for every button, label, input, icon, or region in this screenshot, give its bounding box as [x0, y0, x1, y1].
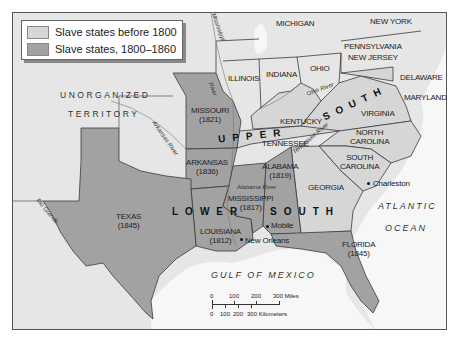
- label-south-carolina: SOUTH CAROLINA: [340, 153, 379, 171]
- legend-swatch-light: [27, 26, 49, 39]
- label-north-carolina: NORTH CAROLINA: [350, 128, 389, 146]
- label-michigan: MICHIGAN: [276, 19, 314, 28]
- legend-swatch-dark: [27, 43, 49, 56]
- scale-mile-0: 0: [210, 293, 213, 299]
- city-new-orleans: New Orleans: [245, 236, 289, 245]
- scale-km-0: 0: [210, 311, 213, 317]
- scale-mile-300: 300 Miles: [273, 293, 299, 299]
- label-indiana: INDIANA: [266, 70, 297, 79]
- label-missouri: MISSOURI(1821): [191, 106, 229, 124]
- scale-km-200: 200: [233, 311, 243, 317]
- label-illinois: ILLINOIS: [228, 74, 259, 83]
- legend-label: Slave states, 1800–1860: [55, 43, 176, 55]
- label-florida: FLORIDA(1845): [342, 240, 375, 258]
- scale-mile-100: 100: [229, 293, 239, 299]
- label-georgia: GEORGIA: [308, 183, 344, 192]
- ocean-label: OCEAN: [385, 223, 427, 233]
- label-alabama: ALABAMA(1819): [262, 162, 298, 180]
- label-louisiana: LOUISIANA(1812): [200, 227, 241, 245]
- label-delaware: DELAWARE: [400, 73, 443, 82]
- territory-line1: UNORGANIZED: [60, 90, 150, 100]
- territory-line2: TERRITORY: [68, 109, 139, 119]
- scale-km-100: 100: [220, 311, 230, 317]
- city-dot-mobile: [266, 225, 269, 228]
- legend-item-before-1800: Slave states before 1800: [27, 24, 177, 40]
- label-maryland: MARYLAND: [404, 93, 447, 102]
- city-dot-charleston: [367, 182, 370, 185]
- river-alabama: Alabama River: [237, 184, 276, 190]
- label-arkansas: ARKANSAS(1836): [186, 158, 228, 176]
- label-ohio: OHIO: [310, 64, 330, 73]
- city-dot-new-orleans: [240, 238, 243, 241]
- gulf-label: GULF OF MEXICO: [211, 270, 316, 280]
- region-lower-label: LOWER: [172, 206, 244, 217]
- label-new-jersey: NEW JERSEY: [348, 53, 398, 62]
- legend-label: Slave states before 1800: [55, 26, 177, 38]
- legend-item-1800-1860: Slave states, 1800–1860: [27, 41, 177, 57]
- label-virginia: VIRGINIA: [361, 109, 395, 118]
- scale-mile-200: 200: [251, 293, 261, 299]
- city-charleston: Charleston: [373, 179, 410, 188]
- atlantic-label: ATLANTIC: [378, 201, 437, 211]
- city-mobile: Mobile: [271, 221, 293, 230]
- label-new-york: NEW YORK: [370, 17, 412, 26]
- label-texas: TEXAS(1845): [116, 212, 141, 230]
- label-pennsylvania: PENNSYLVANIA: [344, 42, 402, 51]
- legend: Slave states before 1800 Slave states, 1…: [21, 20, 183, 60]
- region-lower-south-label: SOUTH: [270, 206, 340, 217]
- label-kentucky: KENTUCKY: [280, 117, 322, 126]
- scale-km-300: 300 Kilometers: [247, 311, 287, 317]
